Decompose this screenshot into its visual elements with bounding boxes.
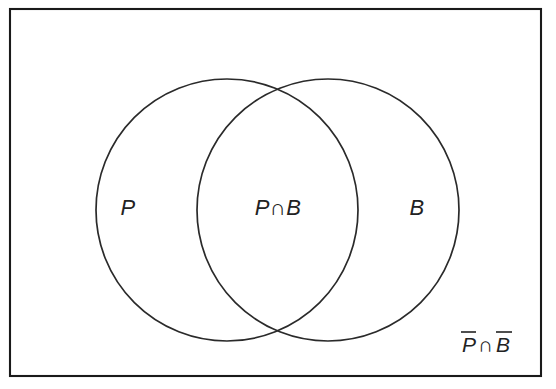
universal-set-rectangle: [10, 9, 541, 376]
venn-diagram-canvas: P P∩B B P ∩ B: [0, 0, 556, 389]
region-label-complement: P ∩ B: [461, 332, 512, 356]
complement-intersection-operator: ∩: [478, 333, 494, 356]
set-label-p: P: [120, 195, 135, 220]
set-label-b: B: [409, 195, 424, 220]
venn-diagram-figure: P P∩B B P ∩ B: [0, 0, 556, 389]
complement-letter-p: P: [462, 333, 477, 356]
region-label-intersection: P∩B: [255, 195, 302, 220]
complement-letter-b: B: [496, 333, 511, 356]
